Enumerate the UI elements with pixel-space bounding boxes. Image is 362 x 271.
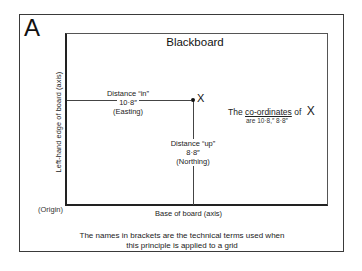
figure-caption: The names in brackets are the technical … (60, 231, 304, 250)
northing-caption: Distance “up” (163, 139, 223, 148)
blackboard-box (65, 33, 328, 206)
point-dot-icon (191, 98, 195, 102)
easting-annotation: Distance “in” 10·8″ (Easting) (88, 89, 168, 116)
coord-prefix: The (228, 107, 243, 117)
coord-term: co-ordinates (245, 107, 292, 117)
coord-point: X (307, 104, 315, 118)
coord-of: of (294, 107, 301, 117)
caption-line-1: The names in brackets are the technical … (60, 231, 304, 241)
easting-value: 10·8″ (117, 98, 139, 107)
coordinates-values: are 10·8,″ 8·8″ (246, 117, 288, 124)
easting-caption: Distance “in” (88, 89, 168, 98)
coordinates-statement: The co-ordinates of X (228, 104, 315, 118)
northing-term: (Northing) (163, 157, 223, 166)
northing-annotation: Distance “up” 8·8″ (Northing) (163, 139, 223, 166)
base-axis-label: Base of board (axis) (155, 209, 222, 218)
left-axis-label: Left-hand edge of board (axis) (54, 72, 63, 173)
origin-label: (Origin) (38, 205, 63, 214)
easting-term: (Easting) (88, 107, 168, 116)
northing-value: 8·8″ (163, 148, 223, 157)
caption-line-2: this principle is applied to a grid (60, 241, 304, 251)
point-label: X (197, 92, 204, 104)
board-title: Blackboard (160, 36, 230, 48)
panel-letter: A (24, 15, 40, 41)
